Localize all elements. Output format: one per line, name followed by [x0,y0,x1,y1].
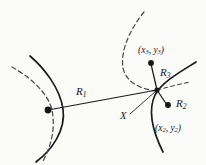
station-3-point-dot [148,60,154,66]
label-r1-sub: 1 [83,90,87,99]
label-r1-base: R [76,85,83,97]
label-r1: R1 [76,86,86,98]
hyperbola-left-dashed-curve [12,67,53,163]
label-r3: R3 [160,67,170,79]
fix-point-marker [154,87,159,92]
station-1-focus-dot [45,107,52,114]
label-r2-sub: 2 [183,102,187,111]
segment-r1 [48,90,157,110]
coord3-close: ) [161,45,164,55]
segment-r2 [157,90,167,105]
label-r2: R2 [176,98,186,110]
label-coord-2: (x2, y2) [155,124,181,134]
label-r3-sub: 3 [167,71,171,80]
station-2-point-dot [165,102,171,108]
label-coord-3: (x3, y3) [138,46,164,56]
label-x: X [120,111,126,122]
hyperbola-right-solid-curve [152,62,196,152]
coord2-close: ) [178,123,181,133]
segment-r3 [151,64,157,90]
geometry-drawing [0,0,206,165]
figure-container: R1 R3 R2 X (x3, y3) (x2, y2) [0,0,206,165]
label-r2-base: R [176,97,183,109]
label-r3-base: R [160,66,167,78]
